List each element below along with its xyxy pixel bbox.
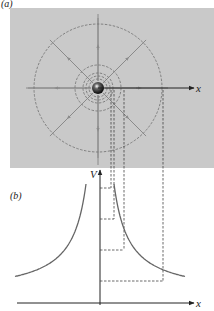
panel-b-x-label: x — [195, 297, 201, 309]
potential-curve-right — [114, 184, 185, 277]
panel-a-field-map: x — [10, 8, 214, 168]
electric-potential-diagram: (a) x (b) V x — [0, 0, 214, 311]
panel-a-x-label: x — [195, 82, 201, 94]
potential-curve-left — [15, 184, 86, 277]
v-axis-label: V — [90, 168, 98, 180]
panel-b-label: (b) — [10, 190, 22, 202]
potential-level-dashes — [100, 188, 163, 281]
panel-b-potential-graph: V x — [15, 168, 201, 309]
